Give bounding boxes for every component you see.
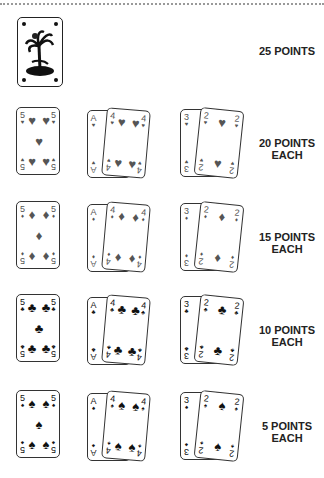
card-index: A♣ [90, 301, 97, 315]
suit-pip-icon: ♠ [39, 438, 53, 451]
rank-text: 2 [198, 256, 204, 266]
card-index: A♠ [90, 397, 97, 411]
points-each: EACH [252, 243, 322, 255]
card-index: 2♦ [197, 251, 205, 266]
suit-pip-icon: ♣ [128, 303, 143, 317]
card-index: 2♥ [202, 111, 210, 126]
suit-pip-icon: ♦ [125, 251, 140, 265]
card-2-spades: 2♠2♠2♠2♠♠♠ [194, 390, 245, 462]
suit-pip-icon: ♦ [25, 208, 39, 221]
suit-pip-icon: ♣ [39, 342, 53, 355]
suit-pip-icon: ♥ [128, 116, 143, 130]
suit-pip-icon: ♦ [214, 210, 229, 224]
suit-pip-icon: ♦ [210, 250, 225, 264]
rank-text: 2 [198, 162, 204, 172]
card-4-hearts: 4♥4♥4♥4♥♥♥♥♥ [101, 107, 151, 179]
points-label-clubs: 10 POINTSEACH [252, 324, 322, 348]
rank-text: 2 [229, 448, 235, 458]
card-index: 2♠ [202, 394, 210, 409]
palm-tree-joker-icon [18, 18, 62, 84]
suit-pip-icon: ♠ [32, 418, 46, 431]
suit-pip-icon: ♥ [125, 157, 140, 171]
rank-text: 2 [229, 352, 235, 362]
suit-pip-icon: ♦ [114, 209, 129, 223]
rank-text: 2 [198, 349, 204, 359]
suit-pip-icon: ♥ [39, 114, 53, 127]
suit-icon: ♦ [198, 251, 206, 258]
card-index: 2♣ [228, 347, 236, 362]
suit-pip-icon: ♣ [114, 302, 129, 316]
points-each: EACH [252, 432, 322, 444]
rank-text: 2 [198, 445, 204, 455]
card-index: 3♠ [183, 396, 190, 410]
rank-text: A [91, 448, 97, 458]
points-each: EACH [252, 149, 322, 161]
suit-pip-icon: ♣ [214, 303, 229, 317]
card-index: 3♦ [183, 253, 190, 267]
suit-pip-icon: ♥ [32, 135, 46, 148]
points-label-spades: 5 POINTSEACH [252, 420, 322, 444]
points-label-diamonds: 15 POINTSEACH [252, 231, 322, 255]
suit-pip-icon: ♣ [210, 343, 225, 357]
card-index: 3♥ [183, 113, 190, 127]
suit-pip-icon: ♥ [114, 115, 129, 129]
suit-pip-icon: ♦ [25, 249, 39, 262]
rank-text: 2 [229, 165, 235, 175]
suit-pip-icon: ♣ [25, 301, 39, 314]
points-value: 15 POINTS [252, 231, 322, 243]
card-index: 3♣ [183, 300, 190, 314]
card-index: 2♠ [197, 440, 205, 455]
suit-pip-icon: ♣ [111, 343, 126, 357]
rank-text: 3 [184, 351, 189, 361]
suit-pip-icon: ♥ [111, 156, 126, 170]
rank-text: A [91, 259, 97, 269]
suit-pip-icon: ♥ [25, 114, 39, 127]
suit-pip-icon: ♠ [210, 439, 225, 453]
joker-card [17, 17, 63, 87]
card-index: A♦ [90, 208, 97, 222]
card-index: 2♣ [202, 298, 210, 313]
suit-pip-icon: ♠ [39, 397, 53, 410]
card-2-clubs: 2♣2♣2♣2♣♣♣ [194, 294, 245, 366]
suit-icon: ♥ [198, 157, 206, 164]
suit-icon: ♥ [229, 160, 237, 167]
rank-text: 3 [184, 447, 189, 457]
suit-pip-icon: ♣ [32, 322, 46, 335]
suit-pip-icon: ♦ [128, 210, 143, 224]
suit-pip-icon: ♠ [111, 439, 126, 453]
rank-text: 3 [184, 258, 189, 268]
suit-pip-icon: ♥ [39, 155, 53, 168]
card-index: A♣ [90, 347, 97, 361]
rank-text: A [91, 352, 97, 362]
card-index: 2♦ [233, 208, 241, 223]
card-index: 3♠ [183, 442, 190, 456]
points-label-25: 25 POINTS [252, 45, 322, 57]
suit-pip-icon: ♦ [39, 208, 53, 221]
card-index: 2♥ [228, 160, 236, 175]
card-index: A♦ [90, 254, 97, 268]
suit-pip-icon: ♠ [25, 397, 39, 410]
suit-icon: ♠ [198, 440, 206, 447]
suit-icon: ♣ [198, 344, 206, 351]
points-value: 20 POINTS [252, 137, 322, 149]
card-5-spades: 5♠5♠5♠5♠♠♠♠♠♠ [16, 390, 60, 458]
dotted-border [0, 3, 324, 8]
card-index: 2♥ [233, 114, 241, 129]
card-index: A♥ [90, 114, 97, 128]
suit-pip-icon: ♣ [125, 344, 140, 358]
rank-text: 3 [184, 164, 189, 174]
card-2-hearts: 2♥2♥2♥2♥♥♥ [194, 107, 245, 179]
suit-pip-icon: ♠ [114, 398, 129, 412]
card-index: 2♥ [197, 157, 205, 172]
card-index: A♥ [90, 160, 97, 174]
card-5-hearts: 5♥5♥5♥5♥♥♥♥♥♥ [16, 107, 60, 175]
suit-pip-icon: ♥ [25, 155, 39, 168]
suit-pip-icon: ♦ [111, 250, 126, 264]
suit-pip-icon: ♠ [125, 440, 140, 454]
suit-pip-icon: ♣ [39, 301, 53, 314]
rank-text: A [91, 165, 97, 175]
suit-pip-icon: ♥ [210, 156, 225, 170]
card-4-clubs: 4♣4♣4♣4♣♣♣♣♣ [101, 294, 151, 366]
suit-pip-icon: ♠ [214, 399, 229, 413]
card-index: 2♦ [228, 254, 236, 269]
